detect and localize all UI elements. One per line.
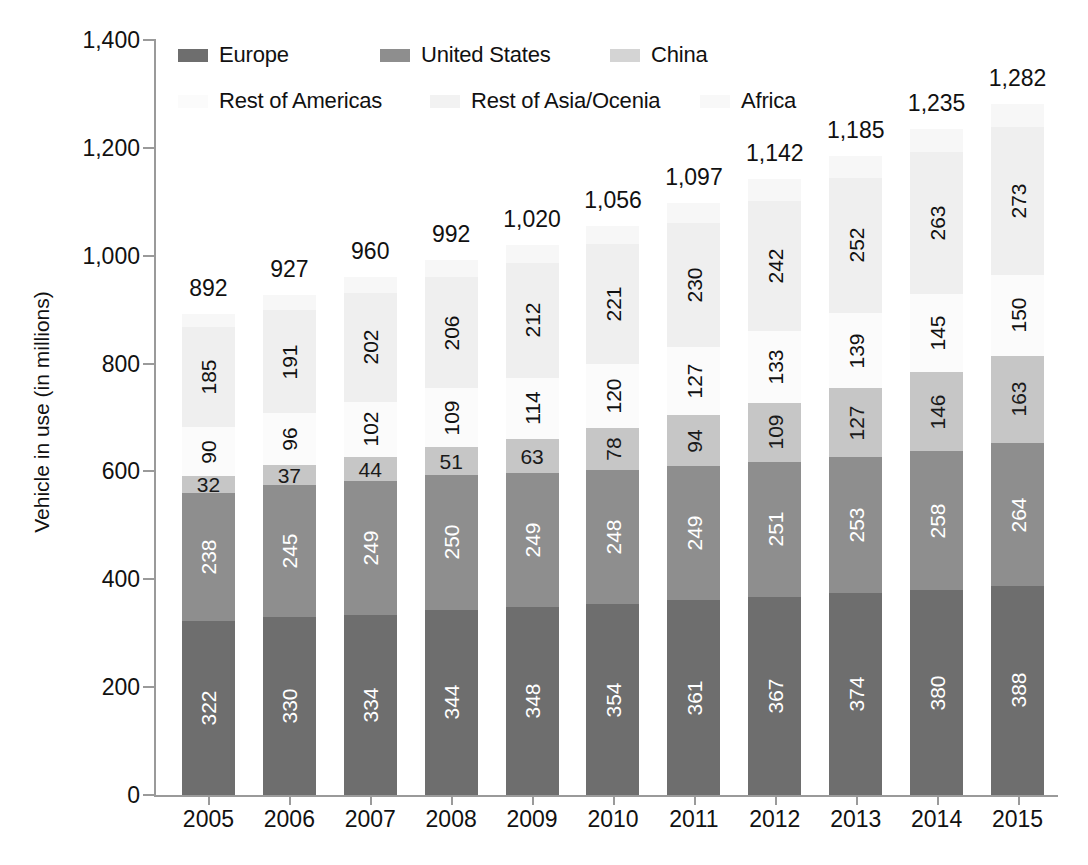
bar-segment[interactable]: 374 [829, 593, 882, 795]
bar-group[interactable]: 2731501632643881,282 [977, 104, 1058, 795]
bar-segment-value: 273 [1007, 183, 1028, 218]
y-axis-title: Vehicle in use (in millions) [30, 152, 54, 672]
bar-segment[interactable]: 253 [829, 457, 882, 593]
bar-group[interactable]: 1859032238322892 [168, 314, 249, 795]
bar-group[interactable]: 2421331092513671,142 [734, 179, 815, 795]
x-tick-label: 2013 [815, 806, 896, 833]
bar-segment[interactable]: 273 [991, 127, 1044, 274]
bar-segment[interactable] [910, 129, 963, 152]
bar-segment[interactable]: 206 [425, 277, 478, 388]
bar-segment[interactable]: 202 [344, 293, 397, 402]
bar-segment[interactable]: 44 [344, 457, 397, 481]
bar-segment[interactable]: 334 [344, 615, 397, 795]
stacked-bar[interactable]: 263145146258380 [910, 129, 963, 795]
bar-segment[interactable]: 212 [506, 263, 559, 377]
bar-segment[interactable]: 145 [910, 294, 963, 372]
bar-segment[interactable]: 242 [748, 201, 801, 332]
bar-segment[interactable]: 146 [910, 372, 963, 451]
bar-segment[interactable]: 264 [991, 443, 1044, 585]
bar-segment[interactable]: 109 [748, 403, 801, 462]
bar-segment[interactable]: 221 [586, 244, 639, 363]
bar-segment[interactable] [506, 245, 559, 263]
bar-segment[interactable]: 251 [748, 462, 801, 597]
bar-segment[interactable] [667, 203, 720, 222]
bar-segment[interactable]: 322 [182, 621, 235, 795]
stacked-bar[interactable]: 20610951250344 [425, 260, 478, 795]
stacked-bar[interactable]: 20210244249334 [344, 277, 397, 795]
bar-segment[interactable]: 388 [991, 586, 1044, 795]
bar-segment[interactable]: 238 [182, 493, 235, 621]
bar-segment-value: 367 [764, 679, 785, 714]
bar-segment[interactable]: 127 [667, 347, 720, 415]
bar-segment[interactable] [263, 295, 316, 310]
bar-segment[interactable]: 150 [991, 275, 1044, 356]
bar-segment[interactable]: 354 [586, 604, 639, 795]
bar-segment[interactable]: 245 [263, 485, 316, 617]
bar-segment[interactable]: 127 [829, 388, 882, 456]
bar-group[interactable]: 212114632493481,020 [492, 245, 573, 795]
bar-segment-value: 94 [683, 429, 704, 452]
bar-segment[interactable]: 37 [263, 465, 316, 485]
bar-group[interactable]: 20610951250344992 [411, 260, 492, 795]
bar-segment[interactable] [425, 260, 478, 277]
bar-segment[interactable]: 258 [910, 451, 963, 590]
bar-segment[interactable]: 114 [506, 378, 559, 439]
stacked-bar[interactable]: 1859032238322 [182, 314, 235, 795]
bar-segment[interactable] [748, 179, 801, 201]
bar-segment[interactable]: 361 [667, 600, 720, 795]
bar-segment-value: 202 [360, 330, 381, 365]
stacked-bar[interactable]: 21211463249348 [506, 245, 559, 795]
bar-segment[interactable]: 263 [910, 152, 963, 294]
bar-segment[interactable]: 63 [506, 439, 559, 473]
bar-segment[interactable]: 139 [829, 313, 882, 388]
bar-segment[interactable]: 230 [667, 223, 720, 347]
bar-segment[interactable] [586, 226, 639, 245]
bar-group[interactable]: 2521391272533741,185 [815, 156, 896, 795]
bar-segment[interactable]: 380 [910, 590, 963, 795]
bar-segment[interactable]: 191 [263, 310, 316, 413]
bar-segment[interactable]: 249 [344, 481, 397, 615]
bar-segment[interactable]: 250 [425, 475, 478, 610]
y-tick-mark [143, 578, 154, 580]
bar-segment[interactable]: 344 [425, 610, 478, 796]
bar-group[interactable]: 230127942493611,097 [653, 203, 734, 795]
stacked-bar[interactable]: 22112078248354 [586, 226, 639, 795]
bar-segment[interactable] [182, 314, 235, 327]
bar-segment[interactable] [991, 104, 1044, 128]
bar-segment[interactable]: 248 [586, 470, 639, 604]
bar-segment[interactable]: 94 [667, 415, 720, 466]
bar-segment[interactable]: 367 [748, 597, 801, 795]
stacked-bar[interactable]: 242133109251367 [748, 179, 801, 795]
stacked-bar[interactable]: 23012794249361 [667, 203, 720, 795]
bar-segment[interactable]: 78 [586, 428, 639, 470]
stacked-bar[interactable]: 1919637245330 [263, 295, 316, 795]
bar-segment[interactable]: 252 [829, 178, 882, 314]
bar-segment[interactable] [344, 277, 397, 293]
bar-segment[interactable]: 133 [748, 331, 801, 403]
bar-segment[interactable]: 51 [425, 447, 478, 475]
x-tick-mark [775, 797, 777, 805]
bar-segment[interactable]: 102 [344, 402, 397, 457]
bar-group[interactable]: 20210244249334960 [330, 277, 411, 795]
stacked-bar[interactable]: 252139127253374 [829, 156, 882, 795]
bar-group[interactable]: 1919637245330927 [249, 295, 330, 795]
y-axis-ticks: 02004006008001,0001,2001,400 [62, 40, 154, 800]
bar-segment[interactable]: 163 [991, 356, 1044, 444]
bar-segment[interactable]: 185 [182, 327, 235, 427]
bar-segment[interactable]: 249 [667, 466, 720, 600]
bar-segment[interactable]: 249 [506, 473, 559, 607]
bar-group[interactable]: 221120782483541,056 [573, 226, 654, 795]
bar-segment[interactable]: 348 [506, 607, 559, 795]
bar-segment-value: 114 [522, 392, 543, 425]
bar-segment[interactable]: 120 [586, 364, 639, 429]
bar-segment[interactable] [829, 156, 882, 178]
bar-segment-value: 127 [683, 364, 704, 399]
bar-segment[interactable]: 330 [263, 617, 316, 795]
bar-segment[interactable]: 32 [182, 476, 235, 493]
x-tick-mark [532, 797, 534, 805]
bar-segment[interactable]: 90 [182, 427, 235, 476]
bar-group[interactable]: 2631451462583801,235 [896, 129, 977, 795]
stacked-bar[interactable]: 273150163264388 [991, 104, 1044, 795]
bar-segment[interactable]: 96 [263, 413, 316, 465]
bar-segment[interactable]: 109 [425, 388, 478, 447]
